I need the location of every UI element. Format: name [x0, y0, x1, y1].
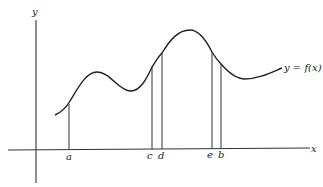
- point-label-c: c: [147, 150, 153, 161]
- point-label-e: e: [207, 149, 213, 160]
- x-axis-label: x: [311, 143, 317, 154]
- curve-label: y = f(x): [283, 62, 322, 73]
- y-axis-label: y: [31, 6, 38, 17]
- point-label-a: a: [66, 151, 72, 162]
- function-graph-diagram: y x y = f(x) a c d e b: [0, 0, 323, 187]
- point-label-d: d: [158, 150, 164, 161]
- function-curve: [55, 30, 282, 115]
- point-label-b: b: [218, 149, 224, 160]
